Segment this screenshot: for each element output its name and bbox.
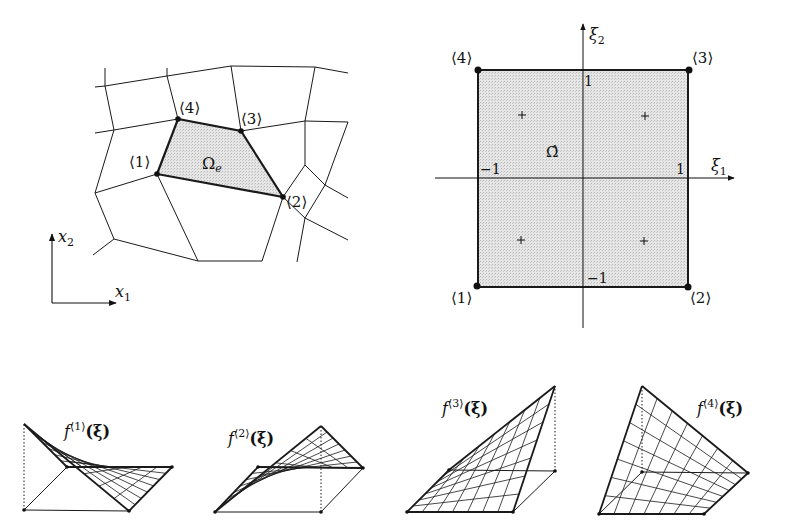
- node-3-label: ⟨3⟩: [241, 110, 262, 128]
- ref-node-3-dot: [686, 67, 693, 74]
- x2-axis-label: x2: [58, 227, 74, 249]
- tick-xi1-pos: 1: [676, 161, 685, 177]
- reference-domain-label: Ω̂: [546, 143, 558, 161]
- shape-function-2-label: f⟨2⟩(ξ): [227, 427, 274, 448]
- ref-node-4-dot: [475, 67, 482, 74]
- ref-node-3-label: ⟨3⟩: [692, 49, 713, 67]
- x1-axis-label: x1: [115, 282, 131, 304]
- shape-function-4-label: f⟨4⟩(ξ): [696, 397, 743, 418]
- ref-node-1-label: ⟨1⟩: [451, 289, 472, 307]
- xi2-axis-label: ξ2: [589, 25, 605, 47]
- tick-xi2-neg: −1: [587, 270, 608, 286]
- node-2-dot: [280, 194, 286, 200]
- shape-function-1-label: f⟨1⟩(ξ): [63, 420, 110, 441]
- node-1-label: ⟨1⟩: [129, 153, 150, 171]
- xi1-axis-label: ξ1: [711, 156, 727, 178]
- ref-node-1-dot: [474, 283, 481, 290]
- tick-xi2-pos: 1: [584, 73, 593, 89]
- node-2-label: ⟨2⟩: [286, 193, 307, 211]
- ref-node-2-label: ⟨2⟩: [690, 289, 711, 307]
- node-1-dot: [154, 171, 160, 177]
- node-4-label: ⟨4⟩: [179, 99, 200, 117]
- finite-element-mapping-figure: ⟨1⟩ ⟨2⟩ ⟨3⟩ ⟨4⟩ Ωe x2 x1 ⟨4⟩ ⟨3⟩ ⟨1⟩ ⟨2⟩…: [0, 0, 795, 532]
- node-4-dot: [175, 116, 181, 122]
- shape-function-3-label: f⟨3⟩(ξ): [441, 397, 488, 418]
- tick-xi1-neg: −1: [480, 161, 501, 177]
- ref-node-4-label: ⟨4⟩: [451, 49, 472, 67]
- node-3-dot: [238, 128, 244, 134]
